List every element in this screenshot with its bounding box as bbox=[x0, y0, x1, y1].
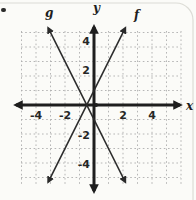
x-tick-label: -2 bbox=[59, 109, 71, 122]
x-tick-label: 4 bbox=[148, 109, 156, 122]
y-tick-label: 2 bbox=[82, 64, 90, 77]
line-label-g: g bbox=[45, 7, 53, 19]
x-axis-label: x bbox=[186, 100, 193, 112]
y-axis-label: y bbox=[93, 2, 100, 14]
origin-point bbox=[94, 103, 98, 107]
x-tick-label: -4 bbox=[30, 109, 43, 122]
y-tick-label: 4 bbox=[82, 35, 90, 48]
graph-svg: -4-22442-2-4 bbox=[0, 0, 196, 200]
y-tick-label: -2 bbox=[78, 129, 90, 142]
line-label-f: f bbox=[134, 9, 139, 21]
grid bbox=[21, 31, 181, 184]
x-tick-label: 2 bbox=[119, 109, 127, 122]
y-tick-label: -4 bbox=[78, 158, 91, 171]
